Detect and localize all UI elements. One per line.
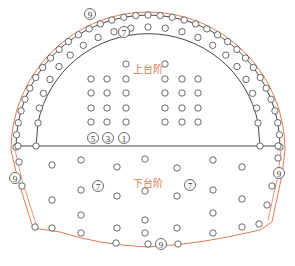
perimeter-hole	[272, 108, 278, 114]
helper-hole	[95, 34, 101, 40]
delay-number-label: 7	[122, 28, 127, 38]
perimeter-hole	[56, 46, 62, 52]
helper-hole	[253, 105, 259, 111]
perimeter-hole	[18, 108, 24, 114]
bench-hole	[142, 217, 148, 223]
perimeter-hole	[75, 32, 81, 38]
cut-hole	[104, 90, 110, 96]
cut-hole	[104, 105, 110, 111]
helper-hole	[56, 63, 62, 69]
perimeter-hole	[145, 12, 151, 18]
perimeter-hole	[133, 12, 139, 18]
bench-hole	[78, 157, 84, 163]
helper-hole	[209, 42, 215, 48]
bench-hole	[78, 230, 84, 236]
perimeter-hole	[204, 26, 210, 32]
lower-bench-holes	[16, 155, 281, 247]
bench-hole	[174, 193, 180, 199]
delay-number-label: 9	[13, 174, 18, 184]
cut-hole	[179, 90, 185, 96]
helper-hole	[80, 42, 86, 48]
perimeter-hole	[22, 96, 28, 102]
perimeter-hole	[33, 74, 39, 80]
numbered-hole-markers: 9753177999	[10, 9, 285, 250]
perimeter-hole	[192, 21, 198, 27]
bench-hole	[210, 230, 216, 236]
helper-hole	[195, 34, 201, 40]
delay-number-label: 3	[106, 134, 111, 144]
bench-hole	[239, 164, 245, 170]
helper-hole	[257, 143, 263, 149]
bench-hole	[32, 224, 38, 230]
perimeter-hole	[242, 55, 248, 61]
bench-hole	[174, 165, 180, 171]
perimeter-hole	[15, 120, 21, 126]
bench-hole	[210, 210, 216, 216]
perimeter-hole	[13, 132, 19, 138]
helper-hole	[40, 90, 46, 96]
cut-hole	[179, 105, 185, 111]
perimeter-hole	[27, 85, 33, 91]
cut-hole	[123, 90, 129, 96]
perimeter-hole	[276, 132, 282, 138]
perimeter-hole	[86, 26, 92, 32]
cut-hole	[179, 119, 185, 125]
delay-number-label: 1	[122, 134, 127, 144]
perimeter-hole	[109, 17, 115, 23]
bench-hole	[49, 162, 55, 168]
perimeter-hole	[224, 38, 230, 44]
helper-hole	[33, 143, 39, 149]
helper-hole	[162, 25, 168, 31]
cut-hole	[162, 105, 168, 111]
helper-hole	[47, 76, 53, 82]
perimeter-holes	[13, 12, 283, 150]
helper-hole	[35, 120, 41, 126]
lower-bench-label: 下台阶	[133, 177, 163, 189]
cut-hole	[123, 61, 129, 67]
cut-hole	[88, 119, 94, 125]
cut-hole	[162, 90, 168, 96]
delay-number-label: 7	[96, 182, 101, 192]
bench-hole	[256, 221, 262, 227]
perimeter-hole	[268, 96, 274, 102]
perimeter-hole	[275, 120, 281, 126]
inner-helper-arc	[36, 34, 260, 146]
cut-hole	[179, 76, 185, 82]
contour-hole	[19, 183, 25, 189]
blasting-hole-layout-diagram: 9753177999 上台阶 下台阶	[0, 0, 295, 266]
bench-hole	[49, 225, 55, 231]
perimeter-hole	[257, 74, 263, 80]
cut-hole	[195, 76, 201, 82]
cut-hole	[195, 119, 201, 125]
cut-hole	[162, 76, 168, 82]
cut-hole	[88, 105, 94, 111]
delay-number-label: 9	[159, 240, 164, 250]
perimeter-hole	[39, 64, 45, 70]
cut-hole	[104, 119, 110, 125]
cut-hole	[88, 76, 94, 82]
bench-hole	[78, 187, 84, 193]
helper-hole	[67, 52, 73, 58]
cut-hole	[195, 90, 201, 96]
perimeter-hole	[97, 21, 103, 27]
bench-hole	[114, 193, 120, 199]
bench-hole	[239, 224, 245, 230]
perimeter-hole	[263, 85, 269, 91]
perimeter-hole	[121, 14, 127, 20]
cut-hole	[88, 90, 94, 96]
contour-hole	[269, 183, 275, 189]
bench-hole	[114, 225, 120, 231]
helper-hole	[243, 76, 249, 82]
contour-hole	[264, 202, 270, 208]
bench-hole	[142, 230, 148, 236]
bench-hole	[78, 212, 84, 218]
cut-hole	[195, 105, 201, 111]
perimeter-hole	[214, 32, 220, 38]
upper-bench-label: 上台阶	[133, 63, 163, 75]
perimeter-hole	[15, 143, 21, 149]
helper-hole	[249, 90, 255, 96]
contour-hole	[175, 241, 181, 247]
contour-hole	[145, 241, 151, 247]
bench-hole	[174, 225, 180, 231]
perimeter-hole	[234, 46, 240, 52]
